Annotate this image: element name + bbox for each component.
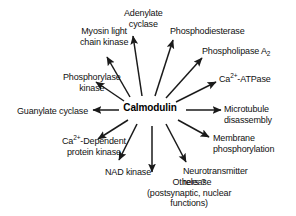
- node-label-line: Guanylate cyclase: [17, 106, 88, 117]
- node-label-line: Myosin light: [80, 26, 128, 37]
- node-label-line: disassembly: [224, 115, 272, 126]
- node-label-line: Phosphodiesterase: [170, 26, 245, 37]
- node-label-microtubule-disassembly: Microtubuledisassembly: [224, 104, 272, 125]
- node-label-line: Others ?: [147, 177, 231, 188]
- node-label-membrane-phosphorylation: Membranephosphorylation: [213, 133, 274, 154]
- node-label-line: Adenylate: [124, 8, 163, 19]
- node-label-nad-kinase: NAD kinase: [105, 167, 151, 178]
- node-label-line: functions): [147, 198, 231, 209]
- node-label-line: Microtubule: [224, 104, 272, 115]
- node-label-line: Neurotransmitter: [183, 166, 248, 177]
- arrow-to-ca-atpase: [176, 82, 216, 102]
- node-label-line: phosphorylation: [213, 144, 274, 155]
- node-label-line: protein kinase: [62, 147, 126, 158]
- node-label-line: chain kinase: [80, 37, 128, 48]
- node-label-line: cyclase: [124, 19, 163, 30]
- node-label-guanylate-cyclase: Guanylate cyclase: [17, 106, 88, 117]
- node-label-line: Phosphorylase: [63, 72, 121, 83]
- node-label-line: (postsynaptic, nuclear: [147, 188, 231, 199]
- arrow-to-neurotransmitter-release: [166, 124, 186, 162]
- node-label-others: Others ?(postsynaptic, nuclearfunctions): [147, 177, 231, 209]
- node-label-line: Membrane: [213, 133, 274, 144]
- node-label-myosin-light-chain-kinase: Myosin lightchain kinase: [80, 26, 128, 47]
- node-label-ca-dependent-protein-kinase: Ca2+-Dependentprotein kinase: [62, 136, 126, 157]
- node-label-phosphorylase-kinase: Phosphorylasekinase: [63, 72, 121, 93]
- node-label-phospholipase-a2: Phospholipase A2: [202, 46, 270, 57]
- arrow-to-adenylate-cyclase: [133, 36, 142, 96]
- center-node-calmodulin: Calmodulin: [112, 102, 188, 113]
- node-label-phosphodiesterase: Phosphodiesterase: [170, 26, 245, 37]
- node-label-line: kinase: [63, 83, 121, 94]
- calmodulin-diagram: AdenylatecyclasePhosphodiesterasePhospho…: [0, 0, 296, 216]
- arrow-to-membrane-phosphorylation: [178, 120, 209, 137]
- node-label-line: Ca2+-Dependent: [62, 136, 126, 147]
- node-label-line: Phospholipase A2: [202, 46, 270, 57]
- node-label-adenylate-cyclase: Adenylatecyclase: [124, 8, 163, 29]
- node-label-ca-atpase: Ca2+-ATPase: [219, 74, 271, 85]
- node-label-line: Ca2+-ATPase: [219, 74, 271, 85]
- arrow-to-phosphodiesterase: [155, 40, 173, 96]
- node-label-line: NAD kinase: [105, 167, 151, 178]
